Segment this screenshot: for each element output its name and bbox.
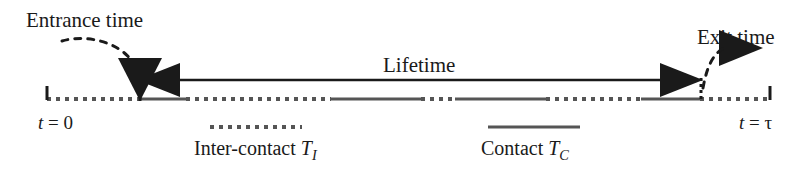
lifetime-arrowhead-right	[660, 63, 703, 97]
axis-end-label-value: τ	[765, 112, 773, 133]
legend-symbol-sub-inter-contact: I	[312, 147, 317, 163]
lifetime-timeline-figure: Entrance time Exit time Lifetime t = 0 t…	[0, 0, 812, 169]
legend-label-inter-contact: Inter-contact	[194, 137, 301, 159]
legend-label-contact: Contact	[481, 137, 548, 159]
legend-item-contact: Contact TC	[481, 138, 569, 162]
legend-symbol-inter-contact: T	[301, 137, 312, 159]
lifetime-label: Lifetime	[383, 55, 455, 76]
legend-symbol-sub-contact: C	[559, 147, 569, 163]
axis-start-label: t = 0	[38, 113, 73, 132]
axis-end-label: t = τ	[739, 113, 772, 132]
axis-start-label-eq: =	[43, 112, 63, 133]
axis-end-label-eq: =	[744, 112, 764, 133]
entrance-time-label: Entrance time	[26, 10, 143, 31]
axis-start-label-value: 0	[64, 112, 74, 133]
legend-item-inter-contact: Inter-contact TI	[194, 138, 317, 162]
exit-time-label: Exit time	[697, 27, 775, 48]
entrance-time-leader-line	[62, 38, 131, 60]
legend-symbol-contact: T	[548, 137, 559, 159]
